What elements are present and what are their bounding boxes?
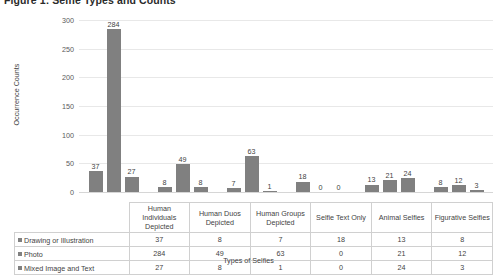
bar[interactable] <box>401 178 415 192</box>
bar[interactable] <box>263 191 277 192</box>
bar-group: 7631 <box>217 20 286 192</box>
table-column-header: Human Groups Depicted <box>250 203 311 233</box>
table-cell: 8 <box>190 233 251 247</box>
bar-value-label: 63 <box>248 148 256 155</box>
bar-slot: 8 <box>158 20 172 192</box>
bar-value-label: 8 <box>439 179 443 186</box>
bar-group: 1800 <box>286 20 355 192</box>
table-body: Drawing or Illustration378718138Photo284… <box>15 233 493 275</box>
bar[interactable] <box>296 182 310 192</box>
table-column-header: Human Individuals Depicted <box>129 203 190 233</box>
bar-slot: 0 <box>314 20 328 192</box>
y-tick-label-200: 200 <box>62 73 74 82</box>
bar[interactable] <box>176 164 190 192</box>
table-cell: 8 <box>432 233 493 247</box>
bar[interactable] <box>194 187 208 192</box>
bar[interactable] <box>227 188 241 192</box>
bar[interactable] <box>245 156 259 192</box>
bar-value-label: 0 <box>337 184 341 191</box>
bar-slot: 49 <box>176 20 190 192</box>
bar-slot: 7 <box>227 20 241 192</box>
table-corner-cell <box>15 203 130 233</box>
bar-value-label: 18 <box>299 173 307 180</box>
bar-slot: 1 <box>263 20 277 192</box>
bar-slot: 12 <box>452 20 466 192</box>
bar-value-label: 8 <box>163 179 167 186</box>
y-tick-label-0: 0 <box>70 188 74 197</box>
bar-value-label: 27 <box>128 168 136 175</box>
bar-slot: 27 <box>125 20 139 192</box>
table-header: Human Individuals DepictedHuman Duos Dep… <box>15 203 493 233</box>
table-cell: 18 <box>311 233 372 247</box>
bar-slot: 37 <box>89 20 103 192</box>
legend-label: Drawing or Illustration <box>24 235 94 244</box>
table-column-header: Animal Selfies <box>371 203 432 233</box>
bar-value-label: 7 <box>232 180 236 187</box>
bar-value-label: 0 <box>319 184 323 191</box>
legend-swatch-icon <box>18 238 22 242</box>
legend-swatch-icon <box>18 266 22 270</box>
bar-value-label: 21 <box>386 172 394 179</box>
bar-chart: Occurrence Counts 050100150200250300 372… <box>0 12 497 207</box>
bar-value-label: 37 <box>92 163 100 170</box>
y-tick-label-50: 50 <box>66 159 74 168</box>
bar-value-label: 13 <box>368 176 376 183</box>
y-axis-title: Occurrence Counts <box>12 48 21 142</box>
x-axis-title: Types of Selfies <box>0 256 497 265</box>
legend-item[interactable]: Drawing or Illustration <box>15 233 130 247</box>
bar-slot: 8 <box>194 20 208 192</box>
bar-value-label: 3 <box>475 182 479 189</box>
table-cell: 13 <box>371 233 432 247</box>
bar-value-label: 49 <box>179 156 187 163</box>
y-tick-label-250: 250 <box>62 44 74 53</box>
y-tick-label-300: 300 <box>62 16 74 25</box>
bar-slot: 13 <box>365 20 379 192</box>
bar[interactable] <box>434 187 448 192</box>
bar-value-label: 8 <box>199 179 203 186</box>
bar-group: 8498 <box>148 20 217 192</box>
gridline-0 <box>79 192 493 193</box>
bar-slot: 18 <box>296 20 310 192</box>
table-header-row: Human Individuals DepictedHuman Duos Dep… <box>15 203 493 233</box>
bar-slot: 24 <box>401 20 415 192</box>
bar[interactable] <box>470 190 484 192</box>
bar-slot: 3 <box>470 20 484 192</box>
table-cell: 37 <box>129 233 190 247</box>
bar[interactable] <box>383 180 397 192</box>
bar-groups: 37284278498763118001321248123 <box>79 20 493 192</box>
bar[interactable] <box>89 171 103 192</box>
bar-slot: 63 <box>245 20 259 192</box>
bar-group: 3728427 <box>79 20 148 192</box>
bar-value-label: 24 <box>404 170 412 177</box>
table-row: Drawing or Illustration378718138 <box>15 233 493 247</box>
table-column-header: Human Duos Depicted <box>190 203 251 233</box>
bar-slot: 284 <box>107 20 121 192</box>
bar-slot: 0 <box>332 20 346 192</box>
bar-value-label: 1 <box>268 183 272 190</box>
bar-group: 8123 <box>424 20 493 192</box>
table-column-header: Selfie Text Only <box>311 203 372 233</box>
bar[interactable] <box>452 185 466 192</box>
table-cell: 7 <box>250 233 311 247</box>
bar[interactable] <box>125 177 139 192</box>
y-tick-label-150: 150 <box>62 102 74 111</box>
bar-group: 132124 <box>355 20 424 192</box>
bar[interactable] <box>107 29 121 192</box>
bar-slot: 21 <box>383 20 397 192</box>
bar-value-label: 284 <box>108 21 120 28</box>
bar[interactable] <box>158 187 172 192</box>
bar[interactable] <box>365 185 379 192</box>
y-tick-label-100: 100 <box>62 130 74 139</box>
figure-caption: Figure 1: Selfie Types and Counts <box>4 0 176 6</box>
plot-area: 050100150200250300 372842784987631180013… <box>79 20 493 192</box>
table-column-header: Figurative Selfies <box>432 203 493 233</box>
bar-value-label: 12 <box>455 177 463 184</box>
bar-slot: 8 <box>434 20 448 192</box>
